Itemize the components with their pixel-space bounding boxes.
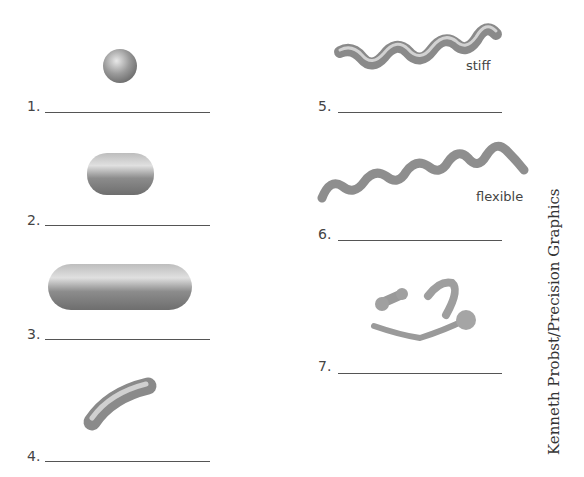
item-3-answer-line[interactable] xyxy=(45,339,210,340)
image-credit: Kenneth Probst/Precision Graphics xyxy=(545,188,563,455)
item-6-number: 6. xyxy=(318,226,331,242)
item-7-number: 7. xyxy=(318,358,331,374)
item-2-answer-line[interactable] xyxy=(45,225,210,226)
item-4-answer-line[interactable] xyxy=(45,461,210,462)
item-5-answer-line[interactable] xyxy=(338,112,502,113)
item-4-number: 4. xyxy=(27,448,40,464)
sphere-shape xyxy=(103,49,137,83)
item-5-number: 5. xyxy=(318,98,331,114)
item-2-number: 2. xyxy=(27,212,40,228)
short-rod-shape xyxy=(87,153,154,195)
item-3-number: 3. xyxy=(27,326,40,342)
long-rod-shape xyxy=(48,264,192,310)
item-1-answer-line[interactable] xyxy=(45,112,210,113)
stiff-annotation: stiff xyxy=(466,58,490,73)
bacteria-shapes-illustration xyxy=(0,0,584,477)
item-7-answer-line[interactable] xyxy=(338,373,502,374)
item-6-answer-line[interactable] xyxy=(338,240,502,241)
fragments-shape xyxy=(374,283,476,338)
flexible-annotation: flexible xyxy=(476,189,523,204)
item-1-number: 1. xyxy=(27,98,40,114)
